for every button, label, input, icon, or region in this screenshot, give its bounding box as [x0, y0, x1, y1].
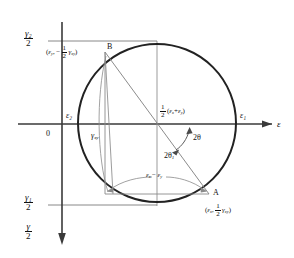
center-coordinate-label: 1 2 (εx+εy)	[160, 104, 185, 119]
mohrs-circle-drawing	[0, 0, 294, 258]
axis-tick-gamma2-label: γ₂ 2	[24, 29, 33, 48]
two-theta-1-label: 2θ1	[164, 152, 174, 161]
epsilon-difference-label: εx − εy	[146, 172, 162, 180]
epsilon1-label: ε₁	[240, 112, 246, 120]
point-B-letter: B	[107, 43, 112, 51]
figure-canvas: γ₂ 2 γ₁ 2 γ 2 0 ε ε₂ ε₁ B (εy, − 1 2 γxy…	[0, 0, 294, 258]
point-A-coordinates: (εx, 1 2 γxy)	[205, 203, 231, 218]
epsilon-axis-arrow-icon	[262, 120, 272, 127]
epsilon-axis-label: ε	[277, 120, 281, 129]
two-theta-arrowhead-icon	[186, 127, 192, 134]
gamma-axis-arrow-icon	[58, 233, 66, 245]
two-theta-label: 2θ	[193, 134, 201, 142]
point-A-letter: A	[213, 189, 219, 197]
origin-label: 0	[46, 130, 50, 138]
epsilon2-label: ε₂	[66, 112, 72, 120]
gamma-xy-label: γxy	[91, 132, 99, 141]
axis-tick-gamma1-label: γ₁ 2	[24, 193, 33, 212]
chord-B-to-bottom-left	[105, 52, 113, 194]
point-B-coordinates: (εy, − 1 2 γxy)	[46, 45, 77, 60]
gamma-axis-label: γ 2	[25, 222, 32, 241]
